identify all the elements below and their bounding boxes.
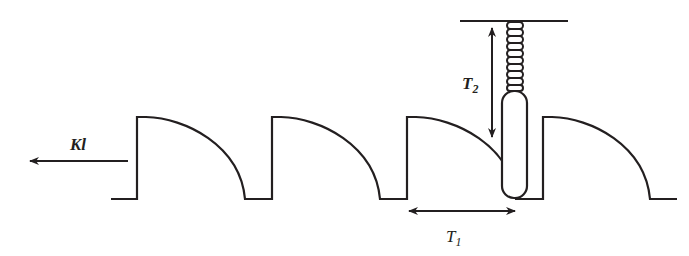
t1-label: T1 — [446, 228, 461, 248]
waveform-diagram — [0, 0, 689, 256]
t2-label: T2 — [462, 75, 478, 95]
velocity-label-text: Kl — [70, 135, 86, 154]
t2-label-text: T — [462, 74, 472, 93]
velocity-label: Kl — [70, 136, 86, 153]
t2-label-subscript: 2 — [472, 82, 478, 96]
follower-capsule — [502, 91, 527, 198]
t1-label-subscript: 1 — [455, 235, 461, 249]
pulse-waveform — [111, 117, 677, 199]
spring-icon — [507, 22, 523, 91]
